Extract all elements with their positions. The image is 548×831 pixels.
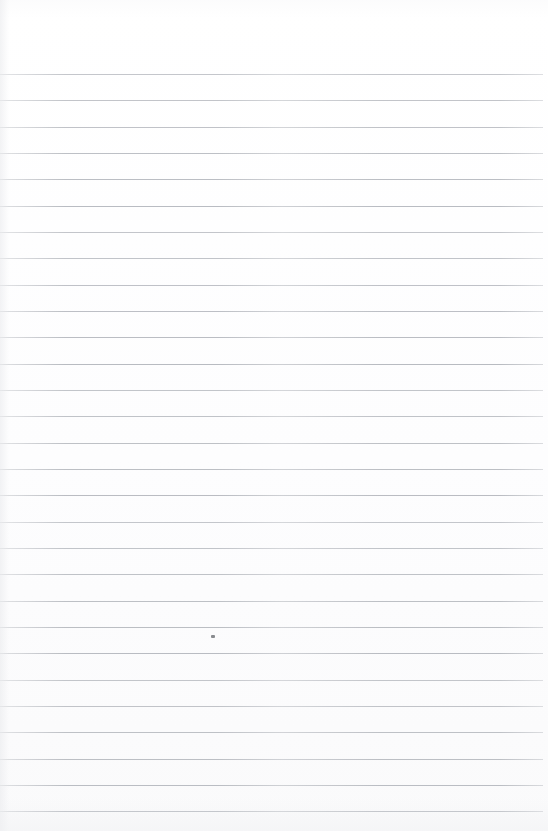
rule-line [0,680,543,681]
rule-line [0,469,543,470]
rule-line [0,785,543,786]
rule-line [0,495,543,496]
rule-line [0,653,543,654]
rule-line [0,601,543,602]
rule-line [0,337,543,338]
scan-edge-shading-bottom [0,797,548,831]
rule-line [0,574,543,575]
rule-line [0,706,543,707]
rule-line [0,153,543,154]
rule-line [0,416,543,417]
rule-line [0,285,543,286]
scan-edge-shading-top [0,0,548,18]
rule-line [0,390,543,391]
rule-line [0,364,543,365]
rule-line [0,443,543,444]
rule-line [0,627,543,628]
rule-line [0,179,543,180]
rule-line [0,74,543,75]
rule-line [0,206,543,207]
rule-line [0,548,543,549]
rule-line [0,522,543,523]
rule-line [0,811,543,812]
rule-line [0,127,543,128]
rule-line [0,258,543,259]
rule-line [0,759,543,760]
rule-line [0,232,543,233]
rule-line [0,732,543,733]
ink-speck-icon [211,635,215,638]
rule-line [0,311,543,312]
page-canvas [0,0,548,831]
rule-line [0,100,543,101]
